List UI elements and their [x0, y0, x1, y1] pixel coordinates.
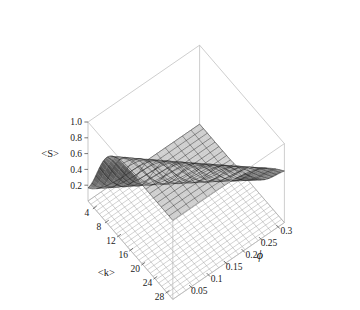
svg-text:<k>: <k>: [98, 267, 115, 278]
svg-text:8: 8: [97, 222, 102, 232]
svg-text:20: 20: [131, 264, 141, 274]
svg-text:1.0: 1.0: [70, 117, 82, 127]
svg-text:0.8: 0.8: [70, 133, 82, 143]
svg-text:12: 12: [106, 236, 116, 246]
svg-text:0.4: 0.4: [70, 165, 82, 175]
plot-canvas: 1.00.80.60.40.2<S>481216202428<k>0.050.1…: [0, 0, 360, 310]
svg-text:0.6: 0.6: [70, 149, 82, 159]
svg-text:4: 4: [84, 208, 89, 218]
svg-text:16: 16: [118, 250, 128, 260]
svg-text:ϕ: ϕ: [257, 248, 263, 262]
svg-text:0.3: 0.3: [280, 226, 292, 236]
svg-text:0.15: 0.15: [226, 262, 243, 272]
svg-text:0.2: 0.2: [70, 181, 82, 191]
svg-text:<S>: <S>: [41, 148, 59, 159]
surface-plot-figure: 1.00.80.60.40.2<S>481216202428<k>0.050.1…: [0, 0, 360, 310]
svg-text:0.05: 0.05: [191, 286, 208, 296]
svg-text:0.1: 0.1: [211, 274, 223, 284]
surface-mesh: [88, 124, 284, 220]
svg-text:24: 24: [143, 278, 153, 288]
svg-text:0.25: 0.25: [261, 238, 278, 248]
svg-text:28: 28: [155, 292, 165, 302]
